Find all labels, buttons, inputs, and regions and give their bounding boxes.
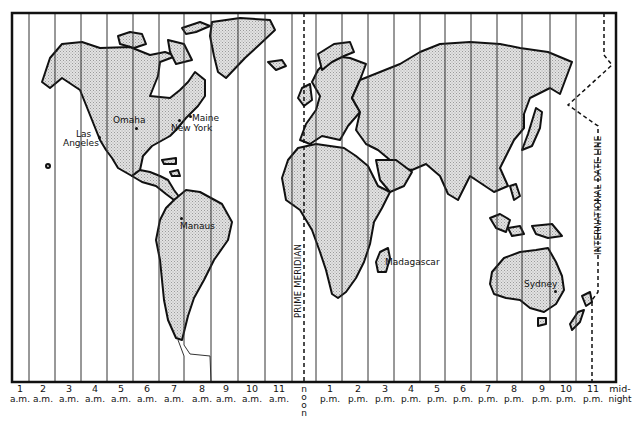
- city-name: Omaha: [113, 115, 146, 125]
- city-name: New York: [171, 123, 212, 133]
- city-dot: [189, 115, 192, 118]
- zone-label-3pm: 3p.m.: [372, 384, 398, 404]
- zone-label-8am: 8a.m.: [189, 384, 215, 404]
- zone-label-6pm: 6p.m.: [450, 384, 476, 404]
- cuba: [162, 158, 176, 164]
- zone-label-9pm: 9p.m.: [529, 384, 555, 404]
- tasmania: [538, 318, 546, 326]
- philippines: [510, 184, 520, 200]
- world-map: [0, 0, 636, 429]
- zone-label-1pm: 1p.m.: [317, 384, 343, 404]
- zone-label-9am: 9a.m.: [213, 384, 239, 404]
- zone-label-11pm: 11p.m.: [580, 384, 606, 404]
- city-name: Madagascar: [385, 257, 440, 267]
- city-name: Angeles: [63, 138, 99, 148]
- city-maine: Maine: [192, 113, 219, 123]
- prime-meridian-label: PRIME MERIDIAN: [293, 244, 303, 318]
- city-madagascar: Madagascar: [385, 257, 440, 267]
- hispaniola: [170, 170, 180, 176]
- zone-label-10am: 10a.m.: [239, 384, 265, 404]
- zone-label-5am: 5a.m.: [108, 384, 134, 404]
- city-dot: [98, 136, 101, 139]
- indonesia: [490, 214, 510, 232]
- city-name: Sydney: [524, 279, 557, 289]
- zone-label-8pm: 8p.m.: [501, 384, 527, 404]
- new-zealand-south: [570, 310, 584, 330]
- city-name: Manaus: [180, 221, 215, 231]
- iceland: [268, 60, 286, 70]
- city-omaha: Omaha: [113, 115, 146, 125]
- city-dot: [554, 290, 557, 293]
- city-new-york: New York: [171, 123, 212, 133]
- city-dot: [135, 127, 138, 130]
- hawaii: [46, 164, 50, 168]
- arctic-island: [182, 22, 210, 34]
- zone-label-noon: n o o n: [299, 385, 309, 417]
- city-manaus: Manaus: [180, 221, 215, 231]
- zone-label-midnight: mid-night: [607, 384, 633, 404]
- zone-label-3am: 3a.m.: [56, 384, 82, 404]
- city-dot: [178, 119, 181, 122]
- zone-label-7am: 7a.m.: [161, 384, 187, 404]
- new-zealand: [582, 292, 592, 306]
- new-guinea: [532, 224, 562, 238]
- date-line-label: INTERNATIONAL DATE LINE: [593, 136, 603, 255]
- zone-label-4pm: 4p.m.: [398, 384, 424, 404]
- city-sydney: Sydney: [524, 279, 557, 289]
- city-dot: [180, 217, 183, 220]
- zone-label-10pm: 10p.m.: [553, 384, 579, 404]
- zone-label-5pm: 5p.m.: [424, 384, 450, 404]
- arctic-island: [118, 32, 146, 48]
- city-los-angeles-2: Angeles: [63, 138, 99, 148]
- arctic-island: [168, 40, 192, 64]
- zone-label-6am: 6a.m.: [134, 384, 160, 404]
- south-america: [156, 190, 232, 340]
- city-name: Maine: [192, 113, 219, 123]
- landmasses: [42, 18, 592, 340]
- zone-label-11am: 11a.m.: [266, 384, 292, 404]
- zone-label-2am: 2a.m.: [30, 384, 56, 404]
- zone-label-2pm: 2p.m.: [345, 384, 371, 404]
- zone-label-4am: 4a.m.: [82, 384, 108, 404]
- british-isles: [298, 84, 312, 106]
- zone-label-7pm: 7p.m.: [475, 384, 501, 404]
